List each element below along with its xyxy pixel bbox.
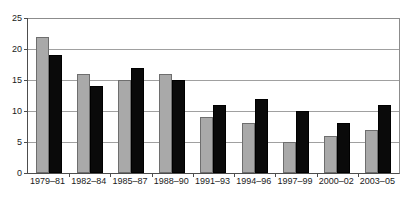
- x-tick-label: 1982–84: [71, 177, 106, 186]
- x-tick-label: 1994–96: [236, 177, 271, 186]
- bar-series-a: [365, 130, 378, 173]
- bar-group: [358, 18, 399, 173]
- bar-series-b: [131, 68, 144, 173]
- x-tick-label: 2003–05: [360, 177, 395, 186]
- x-tick-label: 1985–87: [113, 177, 148, 186]
- y-tick-label: 25: [0, 14, 22, 23]
- bar-group: [110, 18, 151, 173]
- bar-series-b: [337, 123, 350, 173]
- bar-series-b: [49, 55, 62, 173]
- bar-series-b: [296, 111, 309, 173]
- bar-series-a: [118, 80, 131, 173]
- plot-area: [27, 18, 400, 174]
- bar-series-b: [90, 86, 103, 173]
- bar-group: [69, 18, 110, 173]
- bar-series-a: [242, 123, 255, 173]
- bar-series-b: [172, 80, 185, 173]
- bar-group: [234, 18, 275, 173]
- x-tick-label: 1988–90: [154, 177, 189, 186]
- y-tick-label: 5: [0, 138, 22, 147]
- bar-series-a: [200, 117, 213, 173]
- x-axis: 1979–811982–841985–871988–901991–931994–…: [27, 177, 398, 193]
- x-tick-label: 1997–99: [277, 177, 312, 186]
- bar-group: [28, 18, 69, 173]
- bar-group: [317, 18, 358, 173]
- y-tick-label: 20: [0, 45, 22, 54]
- bar-series-a: [324, 136, 337, 173]
- x-tick-label: 1991–93: [195, 177, 230, 186]
- bar-series-a: [36, 37, 49, 173]
- y-tick-label: 0: [0, 169, 22, 178]
- bar-series-a: [77, 74, 90, 173]
- y-tick-label: 15: [0, 76, 22, 85]
- bar-series-b: [213, 105, 226, 173]
- bar-group: [275, 18, 316, 173]
- bar-series-b: [255, 99, 268, 173]
- y-axis: 0510152025: [0, 0, 22, 206]
- bar-group: [193, 18, 234, 173]
- y-tick-label: 10: [0, 107, 22, 116]
- bar-series-b: [378, 105, 391, 173]
- bar-series-a: [283, 142, 296, 173]
- x-tick-label: 1979–81: [30, 177, 65, 186]
- bar-group: [152, 18, 193, 173]
- bar-series-a: [159, 74, 172, 173]
- x-tick-label: 2000–02: [319, 177, 354, 186]
- y-tick-mark-0: [24, 173, 28, 174]
- bar-chart: 0510152025 1979–811982–841985–871988–901…: [0, 0, 415, 206]
